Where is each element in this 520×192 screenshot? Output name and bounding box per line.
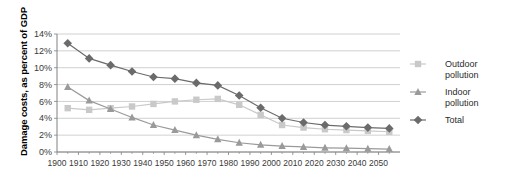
data-point-marker: [64, 83, 71, 90]
data-point-marker: [213, 81, 222, 90]
x-tick-label: 2050: [369, 158, 388, 168]
x-tick-label: 1990: [240, 158, 259, 168]
data-point-marker: [256, 103, 265, 112]
x-tick-label: 2000: [262, 158, 281, 168]
x-tick-label: 2020: [305, 158, 324, 168]
x-tick-label: 2040: [348, 158, 367, 168]
data-point-marker: [192, 79, 201, 88]
x-tick-label: 1950: [155, 158, 174, 168]
series-line: [68, 43, 390, 128]
legend-label: Outdoor: [445, 59, 478, 69]
x-tick-label: 1930: [112, 158, 131, 168]
series-line: [68, 99, 390, 132]
data-point-marker: [235, 91, 244, 100]
legend-item-outdoor-pollution[interactable]: Outdoorpollution: [410, 59, 479, 80]
gridlines: [57, 34, 400, 152]
data-point-marker: [414, 116, 423, 125]
y-tick-label: 12%: [34, 46, 52, 56]
chart-plot: 0%2%4%6%8%10%12%14% 19001910192019301940…: [0, 0, 520, 192]
data-point-marker: [215, 96, 221, 102]
data-point-marker: [172, 98, 178, 104]
x-tick-label: 1980: [219, 158, 238, 168]
y-tick-label: 0%: [39, 147, 52, 157]
legend-label-line2: pollution: [445, 70, 479, 80]
y-tick-label: 4%: [39, 113, 52, 123]
data-point-marker: [85, 54, 94, 63]
y-tick-label: 6%: [39, 97, 52, 107]
legend-label-line2: pollution: [445, 98, 479, 108]
y-tick-label: 10%: [34, 63, 52, 73]
data-point-marker: [86, 107, 92, 113]
legend-item-indoor-pollution[interactable]: Indoorpollution: [410, 87, 479, 108]
data-point-marker: [236, 102, 242, 108]
data-point-marker: [278, 114, 287, 123]
y-tick-label: 2%: [39, 130, 52, 140]
x-tick-label: 1960: [176, 158, 195, 168]
axis-lines: [57, 34, 400, 152]
data-point-marker: [85, 97, 92, 104]
x-tick-label: 1940: [133, 158, 152, 168]
x-tick-label: 1970: [198, 158, 217, 168]
chart-container: Damage costs, as percent of GDP 0%2%4%6%…: [0, 0, 520, 192]
data-point-marker: [63, 39, 72, 48]
y-tick-label: 8%: [39, 80, 52, 90]
x-tick-label: 1900: [48, 158, 67, 168]
legend-item-total[interactable]: Total: [410, 115, 464, 125]
legend: OutdoorpollutionIndoorpollutionTotal: [410, 59, 479, 125]
series-indoor-pollution: [64, 83, 393, 152]
y-axis-ticks: 0%2%4%6%8%10%12%14%: [34, 29, 57, 157]
data-point-marker: [171, 74, 180, 83]
data-point-marker: [415, 61, 421, 67]
data-point-marker: [149, 73, 158, 82]
legend-label: Total: [445, 115, 464, 125]
data-point-marker: [128, 67, 137, 76]
data-point-marker: [257, 112, 263, 118]
x-tick-label: 1920: [90, 158, 109, 168]
x-axis-ticks: 1900191019201930194019501960197019801990…: [48, 152, 390, 168]
x-tick-label: 1910: [69, 158, 88, 168]
data-point-marker: [129, 103, 135, 109]
data-point-marker: [106, 61, 115, 70]
data-point-marker: [193, 97, 199, 103]
legend-label: Indoor: [445, 87, 471, 97]
data-point-marker: [150, 101, 156, 107]
y-tick-label: 14%: [34, 29, 52, 39]
data-point-marker: [65, 105, 71, 111]
data-point-marker: [279, 122, 285, 128]
x-tick-label: 2030: [326, 158, 345, 168]
x-tick-label: 2010: [283, 158, 302, 168]
